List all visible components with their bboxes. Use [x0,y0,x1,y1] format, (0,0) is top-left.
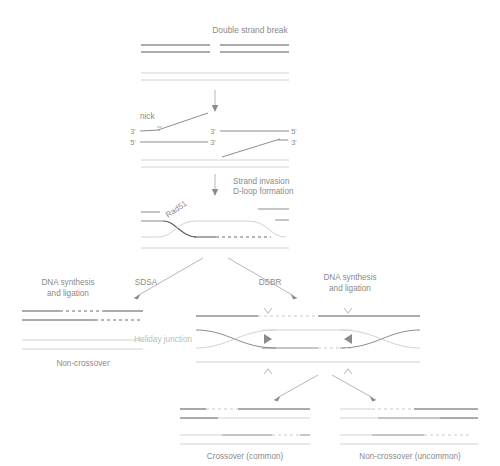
arrow-nick-to-invasion: Strand invasion D-loop formation [212,174,294,196]
dna-synthesis-left-line2: and ligation [47,289,89,298]
prime-label-right-bottom: 3' [291,138,297,147]
step-double-strand-break: Double strand break [141,25,289,80]
dsbr-label: DSBR [259,278,282,287]
prime-label-right-top: 5' [291,127,297,136]
non-crossover-label: Non-crossover [56,359,110,368]
homologous-recombination-diagram: Double strand break nick 3' 5' 3' 3' 5' [0,0,500,466]
prime-label-mid-top: 3' [210,127,216,136]
d-loop-displaced-strand [141,221,286,237]
prime-label-left-top: 3' [130,127,136,136]
strand-invasion-label-line1: Strand invasion [233,177,290,186]
hj-left-junction-arrowhead [264,334,272,344]
sdsa-label: SDSA [135,278,158,287]
dna-synthesis-right-line2: and ligation [329,284,371,293]
step-d-loop-formation: Rad51 [141,199,289,248]
resolution-cut-top-right-chevron [344,308,352,313]
step-nick-resection: nick 3' 5' 3' 3' 5' 3' [130,112,297,167]
prime-label-mid-bottom: 3' [210,138,216,147]
resolution-cut-top-left-chevron [264,308,272,313]
resolution-cut-bottom-right-chevron [344,369,352,374]
resolution-cut-bottom-left-chevron [264,369,272,374]
outcome-sdsa-product: Non-crossover [22,311,143,368]
nick-right-3prime-overhang [222,139,280,157]
strand-invasion-label-line2: D-loop formation [233,187,294,196]
hj-right-junction-arrowhead [344,334,352,344]
page-title: Double strand break [212,25,288,35]
resolution-split-arrows [274,375,377,401]
crossover-common-label: Crossover (common) [207,452,284,461]
nick-left-short-top [140,130,160,131]
nick-label: nick [140,112,155,121]
dna-synthesis-right-line1: DNA synthesis [323,273,376,282]
nick-left-3prime-overhang [158,113,208,130]
step-holiday-junction: Holiday junction [134,308,420,374]
non-crossover-uncommon-label: Non-crossover (uncommon) [359,452,461,461]
rad51-label: Rad51 [164,199,189,220]
outcome-noncrossover-product: Non-crossover (uncommon) [340,409,478,461]
arrow-dsb-to-nick [212,90,218,112]
prime-label-left-bottom: 5' [130,138,136,147]
dna-synthesis-left-line1: DNA synthesis [41,278,94,287]
branch-arrow-dsbr: DSBR DNA synthesis and ligation [228,258,377,299]
holiday-junction-label: Holiday junction [134,335,192,344]
outcome-crossover-product: Crossover (common) [180,409,310,461]
pathway-canvas: Double strand break nick 3' 5' 3' 3' 5' [0,0,500,466]
branch-arrow-sdsa: SDSA DNA synthesis and ligation [41,258,203,299]
